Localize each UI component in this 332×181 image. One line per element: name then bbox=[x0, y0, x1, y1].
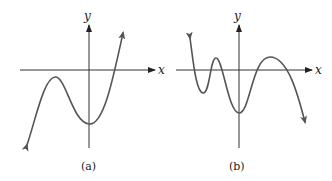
caption-a: (a) bbox=[81, 160, 96, 173]
y-axis-label-b: y bbox=[233, 9, 241, 23]
figure-canvas: x y (a) x y (b) bbox=[0, 0, 332, 181]
x-axis-label-b: x bbox=[315, 63, 322, 77]
caption-b: (b) bbox=[229, 160, 245, 173]
y-axis-label-a: y bbox=[83, 9, 91, 23]
x-axis-label-a: x bbox=[158, 63, 165, 77]
panel-a: x y (a) bbox=[20, 9, 165, 173]
curve-a bbox=[27, 33, 123, 145]
curve-b bbox=[190, 38, 305, 122]
panel-b: x y (b) bbox=[176, 9, 322, 173]
